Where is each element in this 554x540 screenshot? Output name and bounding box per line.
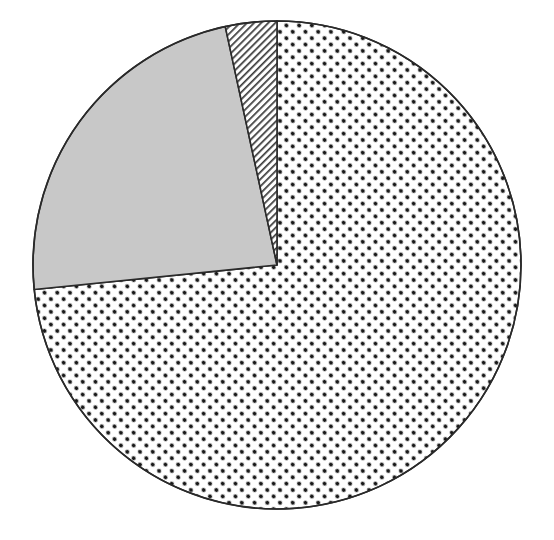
pie-chart xyxy=(0,0,554,540)
pie-slices xyxy=(33,21,521,509)
